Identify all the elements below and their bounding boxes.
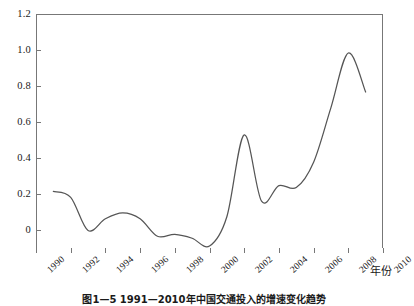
x-tick-label: 1998	[184, 254, 205, 275]
x-tick-mark	[348, 248, 349, 253]
x-axis-title: 年份	[370, 262, 392, 278]
x-tick-mark	[36, 248, 37, 253]
plot-area	[36, 14, 383, 248]
x-tick-mark	[314, 248, 315, 253]
x-tick-mark	[71, 248, 72, 253]
x-tick-label: 1992	[80, 254, 101, 275]
y-axis-tick-labels: 1.2 1.0 0.8 0.6 0.4 0.2 0	[0, 0, 31, 301]
y-tick-label: 0.4	[17, 153, 31, 163]
x-tick-label: 1990	[45, 254, 66, 275]
y-tick-label: 1.2	[17, 9, 31, 19]
x-tick-mark	[383, 248, 384, 253]
x-tick-label: 2002	[253, 254, 274, 275]
data-line-path	[53, 53, 365, 247]
x-tick-label: 1996	[149, 254, 170, 275]
x-tick-mark	[244, 248, 245, 253]
x-tick-label: 2004	[288, 254, 309, 275]
x-tick-mark	[140, 248, 141, 253]
y-tick-label: 0.8	[17, 81, 31, 91]
x-tick-mark	[175, 248, 176, 253]
y-tick-label: 1.0	[17, 45, 31, 55]
figure-caption: 图1—5 1991—2010年中国交通投入的增速变化趋势	[0, 291, 408, 306]
x-tick-label: 1994	[114, 254, 135, 275]
x-tick-label: 2000	[219, 254, 240, 275]
x-tick-mark	[105, 248, 106, 253]
y-tick-label: 0.2	[17, 189, 31, 199]
x-tick-label: 2006	[323, 254, 344, 275]
y-tick-label: 0	[26, 225, 31, 235]
x-tick-mark	[279, 248, 280, 253]
y-tick-label: 0.6	[17, 117, 31, 127]
x-tick-label: 2010	[392, 254, 413, 275]
line-series-svg	[36, 14, 383, 248]
x-tick-mark	[210, 248, 211, 253]
